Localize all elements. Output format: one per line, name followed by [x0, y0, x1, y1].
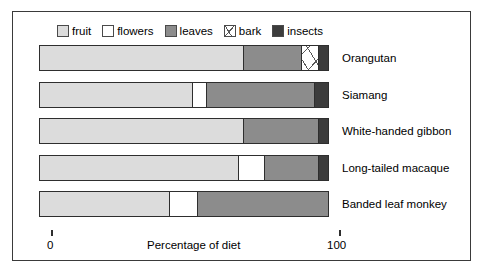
legend-item-fruit[interactable]: fruit — [57, 25, 91, 37]
legend-item-flowers[interactable]: flowers — [102, 25, 153, 37]
stacked-bar-orangutan[interactable] — [39, 45, 329, 71]
legend-label-bark: bark — [239, 25, 261, 37]
legend-swatch-bark — [224, 25, 236, 37]
legend-label-flowers: flowers — [117, 25, 153, 37]
legend-item-insects[interactable]: insects — [272, 25, 323, 37]
legend-swatch-flowers — [102, 25, 114, 37]
bar-label-long-tailed-macaque: Long-tailed macaque — [342, 155, 449, 181]
legend-label-fruit: fruit — [72, 25, 91, 37]
chart-figure: fruit flowers leaves bark insects Orangu… — [12, 11, 471, 261]
bar-row: Orangutan — [39, 45, 459, 71]
legend-item-leaves[interactable]: leaves — [165, 25, 213, 37]
bar-segment-bark — [302, 46, 319, 70]
stacked-bar-siamang[interactable] — [39, 82, 329, 108]
bar-segment-insects — [319, 156, 328, 180]
legend-swatch-insects — [272, 25, 284, 37]
bar-segment-insects — [319, 119, 328, 143]
bar-segment-leaves — [198, 192, 328, 216]
bar-segment-leaves — [244, 46, 302, 70]
chart-plot-area: OrangutanSiamangWhite-handed gibbonLong-… — [39, 45, 459, 230]
bar-segment-fruit — [40, 192, 170, 216]
bar-row: Banded leaf monkey — [39, 191, 459, 217]
bar-row: Siamang — [39, 82, 459, 108]
bar-segment-fruit — [40, 119, 244, 143]
x-axis-tick-0 — [51, 230, 53, 236]
bar-segment-flowers — [193, 83, 207, 107]
bar-segment-fruit — [40, 46, 244, 70]
bar-segment-insects — [319, 46, 328, 70]
bar-segment-leaves — [244, 119, 319, 143]
bar-segment-flowers — [239, 156, 265, 180]
bar-segment-fruit — [40, 83, 193, 107]
legend-swatch-leaves — [165, 25, 177, 37]
x-axis-tick-100 — [339, 230, 341, 236]
chart-legend: fruit flowers leaves bark insects — [57, 22, 323, 40]
bar-label-siamang: Siamang — [342, 82, 387, 108]
x-axis-label-min: 0 — [47, 238, 53, 252]
stacked-bar-long-tailed-macaque[interactable] — [39, 155, 329, 181]
bar-segment-flowers — [170, 192, 199, 216]
bar-label-white-handed-gibbon: White-handed gibbon — [342, 118, 451, 144]
stacked-bar-white-handed-gibbon[interactable] — [39, 118, 329, 144]
x-axis-title: Percentage of diet — [147, 238, 240, 252]
x-axis-label-max: 100 — [327, 238, 346, 252]
legend-item-bark[interactable]: bark — [224, 25, 261, 37]
bar-row: White-handed gibbon — [39, 118, 459, 144]
bar-segment-fruit — [40, 156, 239, 180]
legend-label-insects: insects — [287, 25, 323, 37]
bar-segment-insects — [315, 83, 328, 107]
x-axis: 0 Percentage of diet 100 — [39, 230, 459, 260]
stacked-bar-banded-leaf-monkey[interactable] — [39, 191, 329, 217]
legend-label-leaves: leaves — [180, 25, 213, 37]
bar-segment-leaves — [265, 156, 320, 180]
bar-row: Long-tailed macaque — [39, 155, 459, 181]
bar-segment-leaves — [207, 83, 315, 107]
bar-label-orangutan: Orangutan — [342, 45, 396, 71]
legend-swatch-fruit — [57, 25, 69, 37]
bar-label-banded-leaf-monkey: Banded leaf monkey — [342, 191, 447, 217]
